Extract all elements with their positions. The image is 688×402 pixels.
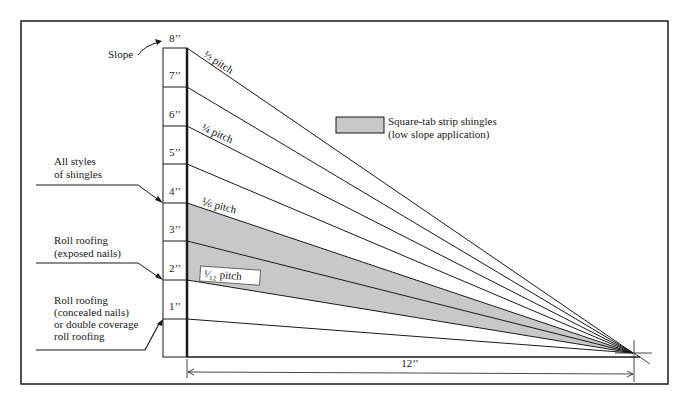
tick-2: 2’’	[169, 262, 181, 274]
callout-roll-concealed-line-4: roll roofing	[54, 330, 105, 342]
callout-all-styles-line-2: of shingles	[54, 168, 102, 180]
tick-4: 4’’	[169, 185, 181, 197]
legend-swatch	[336, 117, 384, 133]
callout-all-styles-line-1: All styles	[54, 155, 96, 167]
callout-roll-exposed-line-2: (exposed nails)	[54, 247, 121, 260]
legend-line-1: Square-tab strip shingles	[388, 115, 497, 127]
callout-all-styles-leader	[36, 185, 160, 201]
dimension-line	[188, 372, 633, 374]
legend-line-2: (low slope application)	[388, 128, 490, 141]
callout-roll-exposed-leader	[36, 263, 160, 278]
convergence-crosshair-d	[634, 353, 650, 364]
tick-3: 3’’	[169, 223, 181, 235]
callout-roll-exposed-line-1: Roll roofing	[54, 234, 109, 246]
tick-6: 6’’	[169, 108, 181, 120]
slope-label: Slope	[108, 48, 133, 60]
roof-slope-diagram: 8’’ 7’’ 6’’ 5’’ 4’’ 3’’ 2’’ 1’’ Slope ⅓ …	[0, 0, 688, 402]
slope-arrowhead-icon	[155, 39, 162, 45]
tick-8: 8’’	[169, 32, 181, 44]
tick-7: 7’’	[169, 69, 181, 81]
callout-roll-exposed-arrow-icon	[155, 273, 163, 280]
callout-roll-concealed-line-1: Roll roofing	[54, 294, 109, 306]
run-label: 12’’	[401, 357, 419, 369]
tick-1: 1’’	[169, 300, 181, 312]
tick-5: 5’’	[169, 146, 181, 158]
callout-roll-concealed-line-3: or double coverage	[54, 318, 138, 330]
callout-all-styles-arrow-icon	[155, 196, 163, 203]
